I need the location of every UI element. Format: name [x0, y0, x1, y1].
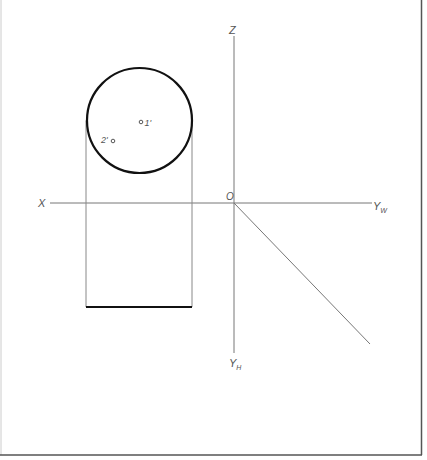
point-2-label: 2'	[100, 135, 108, 145]
origin-label: O	[226, 191, 234, 202]
x-axis-label: X	[37, 197, 46, 209]
projection-diagram: Z X O YW YH 1' 2'	[0, 0, 427, 460]
yw-label-sub: W	[380, 207, 388, 214]
yw-axis-label: YW	[373, 200, 388, 214]
yh-label-sub: H	[236, 364, 242, 371]
z-axis-label: Z	[228, 24, 237, 36]
diagonal-45-line	[234, 203, 370, 344]
point-1-marker	[139, 120, 143, 124]
yh-axis-label: YH	[229, 357, 242, 371]
point-2-marker	[111, 139, 115, 143]
point-1-label: 1'	[145, 118, 152, 128]
